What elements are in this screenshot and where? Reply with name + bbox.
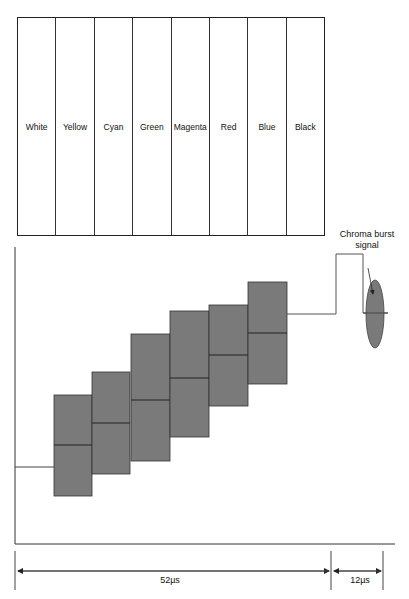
luminance-steps	[54, 282, 287, 496]
active-duration-label: 52µs	[140, 575, 200, 585]
luminance-step-3	[131, 334, 170, 461]
chroma-burst-ellipse	[366, 280, 384, 348]
video-waveform-diagram	[0, 0, 409, 599]
luminance-step-4	[170, 311, 209, 437]
blanking-duration-label: 12µs	[340, 575, 380, 585]
chroma-burst-label: Chroma burst signal	[330, 229, 404, 251]
